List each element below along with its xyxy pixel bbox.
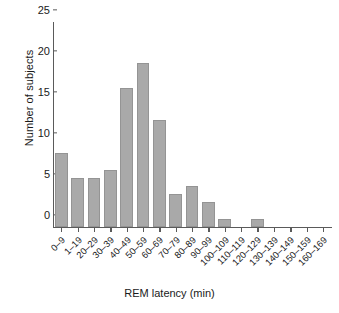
bar-series: [53, 22, 331, 227]
y-axis-tick: 0: [44, 209, 53, 221]
histogram-bin: [217, 22, 233, 227]
histogram-bar: [55, 153, 68, 227]
histogram-bar: [88, 178, 101, 227]
x-axis-title: REM latency (min): [0, 287, 339, 299]
histogram-bin: [53, 22, 69, 227]
histogram-bin: [118, 22, 134, 227]
y-axis-tick-label: 15: [38, 86, 53, 98]
histogram-bin: [102, 22, 118, 227]
y-axis-tick-mark: [53, 9, 57, 10]
histogram-bin: [266, 22, 282, 227]
histogram-bin: [69, 22, 85, 227]
y-axis-title: Number of subjects: [23, 23, 35, 173]
histogram-bin: [184, 22, 200, 227]
x-axis-label-cell: 160–169: [315, 233, 331, 279]
y-axis-tick: 15: [38, 86, 53, 98]
y-axis-tick-label: 10: [38, 127, 53, 139]
histogram-bin: [168, 22, 184, 227]
histogram-bin: [298, 22, 314, 227]
y-axis-tick: 25: [38, 4, 53, 16]
histogram-bar: [153, 120, 166, 227]
histogram-bin: [249, 22, 265, 227]
histogram-bar: [137, 63, 150, 227]
histogram-bin: [86, 22, 102, 227]
y-axis-tick-label: 25: [38, 4, 53, 16]
y-axis-tick-label: 5: [44, 168, 53, 180]
y-axis-tick-label: 20: [38, 45, 53, 57]
histogram-bin: [135, 22, 151, 227]
histogram-bin: [282, 22, 298, 227]
x-axis-tick-labels: 0–91–1920–2930–3940–4950–5960–6970–7980–…: [53, 233, 331, 279]
x-axis-label-cell: 0–9: [53, 233, 69, 279]
plot-area: 0510152025: [53, 22, 331, 227]
histogram-bin: [315, 22, 331, 227]
histogram-bar: [120, 88, 133, 227]
y-axis-tick: 5: [44, 168, 53, 180]
histogram-bar: [71, 178, 84, 227]
y-axis-tick: 20: [38, 45, 53, 57]
histogram-bin: [151, 22, 167, 227]
y-axis-tick-label: 0: [44, 209, 53, 221]
y-axis-tick: 10: [38, 127, 53, 139]
histogram-bin: [233, 22, 249, 227]
histogram-bin: [200, 22, 216, 227]
histogram-figure: Number of subjects 0510152025 0–91–1920–…: [0, 0, 339, 313]
